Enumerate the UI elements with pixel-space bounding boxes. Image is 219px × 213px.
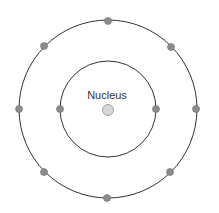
electron-outer (193, 106, 200, 113)
electron-outer (167, 169, 174, 176)
atom-diagram: Nucleus (0, 0, 219, 213)
electron-inner-right (153, 106, 160, 113)
nucleus-label: Nucleus (87, 89, 127, 101)
electron-outer (168, 44, 175, 51)
electron-outer (16, 106, 23, 113)
electron-outer (105, 18, 112, 25)
electron-outer (41, 169, 48, 176)
electron-inner-left (57, 106, 64, 113)
nucleus (103, 105, 114, 116)
electron-outer (41, 43, 48, 50)
electron-outer (104, 195, 111, 202)
